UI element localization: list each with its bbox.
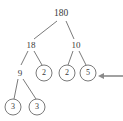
edge-180-10 xyxy=(66,21,74,39)
node-label-180: 180 xyxy=(54,9,68,19)
edge-18-2a xyxy=(34,51,42,65)
node-label-5: 5 xyxy=(86,69,90,77)
factor-tree-figure: 180 18 10 9 2 2 5 3 3 xyxy=(0,0,123,121)
annotation-arrow xyxy=(98,73,123,79)
edge-180-18 xyxy=(34,21,57,39)
edge-18-9 xyxy=(21,51,28,65)
edge-9-3b xyxy=(23,79,36,99)
node-label-9: 9 xyxy=(18,69,23,78)
node-label-2b: 2 xyxy=(65,69,69,77)
node-label-2a: 2 xyxy=(42,69,46,77)
edge-10-2b xyxy=(68,51,73,65)
node-label-18: 18 xyxy=(27,41,36,50)
node-label-3a: 3 xyxy=(11,103,15,111)
node-label-3b: 3 xyxy=(35,103,39,111)
tree-edges xyxy=(14,21,86,99)
annotation-arrow-head xyxy=(98,73,104,79)
edge-10-5 xyxy=(79,51,86,65)
node-label-10: 10 xyxy=(72,41,81,50)
edge-9-3a xyxy=(14,79,18,99)
